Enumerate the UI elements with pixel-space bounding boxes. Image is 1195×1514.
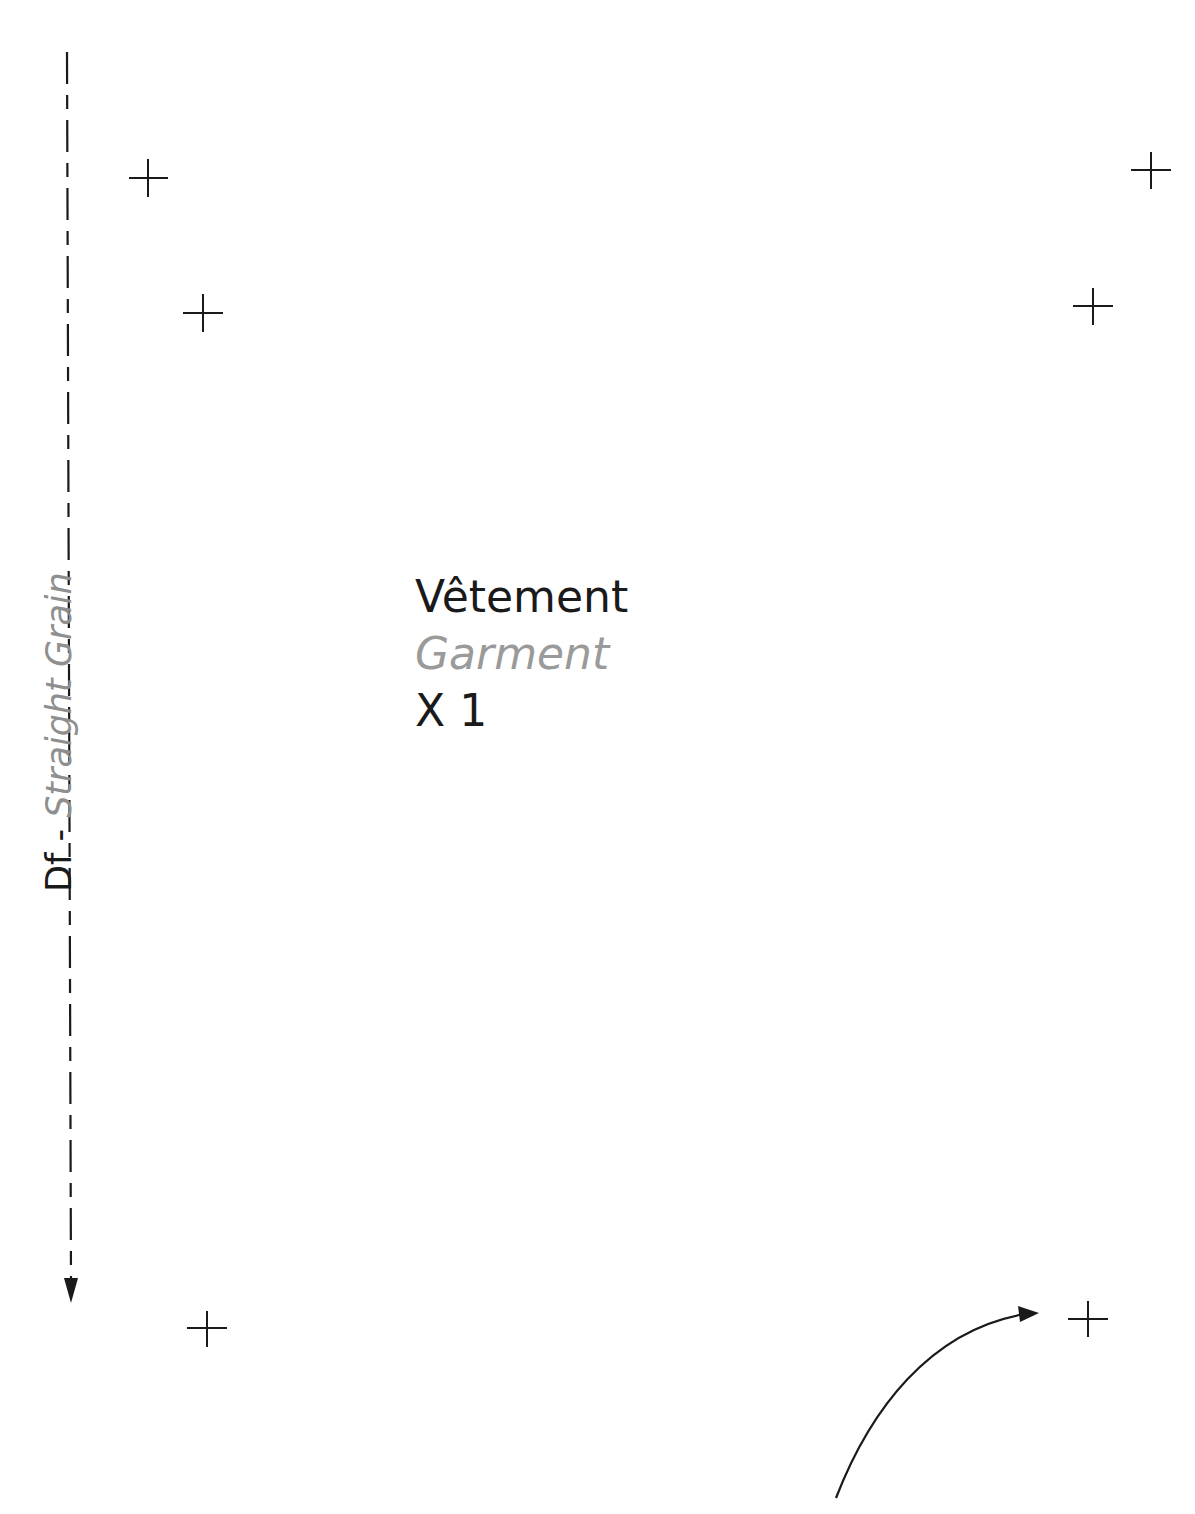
- plus-mark-icon: [1131, 152, 1171, 189]
- curved-arrow-line: [836, 1314, 1025, 1498]
- arrow-down-icon: [64, 1278, 78, 1303]
- piece-label: Vêtement Garment X 1: [415, 568, 628, 739]
- plus-mark-icon: [129, 159, 168, 197]
- grainline-label: Df - Straight Grain: [42, 572, 77, 892]
- plus-mark-icon: [187, 1311, 227, 1347]
- pattern-canvas: [0, 0, 1195, 1514]
- curved-arrow: [836, 1306, 1039, 1498]
- piece-quantity: X 1: [415, 682, 628, 739]
- piece-name-english: Garment: [415, 625, 628, 682]
- registration-marks: [129, 152, 1171, 1347]
- plus-mark-icon: [183, 294, 223, 332]
- grainline-description: Straight Grain: [39, 572, 79, 818]
- grainline-code: Df -: [39, 818, 79, 892]
- arrow-right-icon: [1018, 1306, 1039, 1322]
- plus-mark-icon: [1068, 1301, 1108, 1337]
- plus-mark-icon: [1073, 288, 1113, 325]
- piece-name-french: Vêtement: [415, 568, 628, 625]
